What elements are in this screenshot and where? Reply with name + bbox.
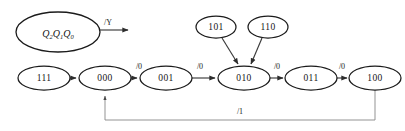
state-node-110[interactable]: 110 [248, 16, 288, 38]
legend-group: Q2Q1Q0 /Y [16, 12, 128, 52]
state-node-000[interactable]: 000 [79, 66, 131, 90]
state-label-111: 111 [37, 73, 52, 83]
state-node-011[interactable]: 011 [285, 66, 337, 90]
state-label-000: 000 [97, 73, 112, 83]
edge-101-to-010 [222, 38, 238, 64]
state-label-010: 010 [236, 73, 251, 83]
state-node-001[interactable]: 001 [140, 66, 192, 90]
edge-label-feedback: /1 [237, 107, 243, 116]
edge-label-010-011: /0 [274, 62, 280, 71]
legend-output-label: /Y [104, 18, 112, 27]
state-node-101[interactable]: 101 [196, 16, 236, 38]
legend-state-variables: Q2Q1Q0 [42, 28, 74, 40]
state-label-100: 100 [367, 73, 382, 83]
edge-label-001-010: /0 [197, 62, 203, 71]
edge-110-to-010 [251, 38, 262, 64]
state-label-101: 101 [208, 22, 223, 32]
state-label-110: 110 [260, 22, 275, 32]
state-node-010[interactable]: 010 [218, 66, 270, 90]
state-label-011: 011 [303, 73, 318, 83]
state-diagram-canvas: Q2Q1Q0 /Y /0 /0 /0 /0 [0, 0, 405, 131]
edge-label-011-100: /0 [339, 62, 345, 71]
edge-label-000-001: /0 [136, 62, 142, 71]
state-label-001: 001 [158, 73, 173, 83]
state-node-111[interactable]: 111 [18, 66, 70, 90]
state-diagram-svg: Q2Q1Q0 /Y /0 /0 /0 /0 [0, 0, 405, 131]
edge-100-to-000-feedback [105, 90, 375, 120]
state-node-100[interactable]: 100 [349, 66, 401, 90]
